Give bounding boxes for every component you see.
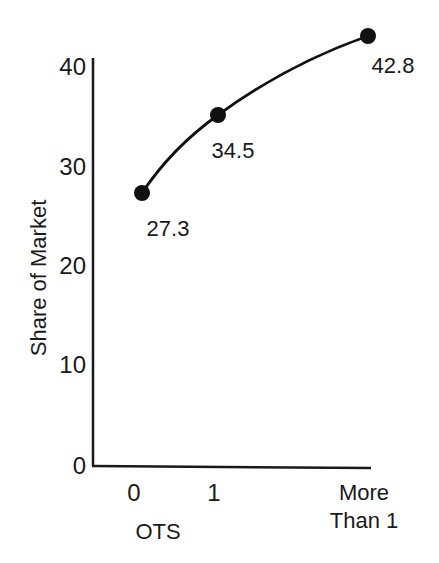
x-axis [92, 466, 371, 468]
x-tick-2-line2: Than 1 [330, 508, 399, 533]
x-tick-2-line1: More [339, 480, 389, 505]
y-tick-10: 10 [59, 351, 86, 378]
data-label-2: 42.8 [372, 53, 415, 78]
x-axis-label: OTS [135, 519, 180, 544]
data-point-0 [134, 185, 150, 201]
y-tick-20: 20 [59, 252, 86, 279]
chart: 40 30 20 10 0 Share of Market 0 1 More T… [0, 0, 439, 563]
data-label-0: 27.3 [147, 216, 190, 241]
data-line [142, 36, 368, 193]
data-point-1 [210, 107, 226, 123]
y-tick-30: 30 [59, 153, 86, 180]
x-tick-1: 1 [207, 479, 220, 506]
x-tick-0: 0 [127, 479, 140, 506]
data-point-2 [360, 28, 376, 44]
data-label-1: 34.5 [212, 138, 255, 163]
y-tick-0: 0 [73, 452, 86, 479]
y-tick-40: 40 [59, 53, 86, 80]
y-axis-label: Share of Market [26, 200, 51, 357]
